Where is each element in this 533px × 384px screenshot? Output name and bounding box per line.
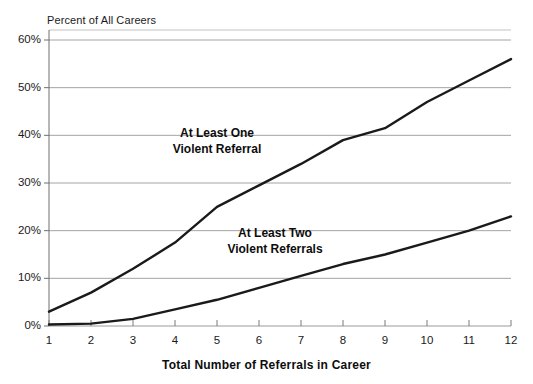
series-line-0 (49, 59, 511, 312)
x-tick-label: 8 (331, 335, 355, 347)
y-tick-label: 20% (0, 225, 41, 237)
series-label-at-least-two: At Least Two Violent Referrals (200, 226, 350, 258)
y-tick-label: 10% (0, 272, 41, 284)
x-tick-label: 9 (373, 335, 397, 347)
x-axis-title: Total Number of Referrals in Career (0, 358, 533, 372)
x-tick-label: 11 (457, 335, 481, 347)
x-tick-label: 12 (499, 335, 523, 347)
y-tick-label: 30% (0, 177, 41, 189)
series-label-line-1: At Least One (152, 126, 282, 142)
series-label-at-least-one: At Least One Violent Referral (152, 126, 282, 158)
x-tick-label: 10 (415, 335, 439, 347)
x-tick-label: 5 (205, 335, 229, 347)
series-label-line-2: Violent Referrals (200, 242, 350, 258)
y-tick-label: 0% (0, 320, 41, 332)
y-tick-label: 40% (0, 129, 41, 141)
y-tick-label: 60% (0, 34, 41, 46)
chart-figure: Percent of All Careers 0%10%20%30%40%50%… (0, 0, 533, 384)
x-tick-label: 6 (247, 335, 271, 347)
x-tick-label: 2 (79, 335, 103, 347)
x-tick-label: 3 (121, 335, 145, 347)
plot-area (0, 0, 533, 384)
x-tick-label: 1 (37, 335, 61, 347)
x-tick-label: 7 (289, 335, 313, 347)
x-tick-label: 4 (163, 335, 187, 347)
series-label-line-2: Violent Referral (152, 142, 282, 158)
y-tick-label: 50% (0, 82, 41, 94)
series-label-line-1: At Least Two (200, 226, 350, 242)
